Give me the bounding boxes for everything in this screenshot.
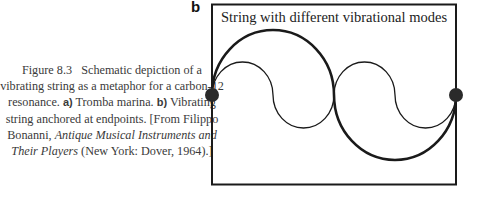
string-diagram: String with different vibrational modes (0, 0, 487, 200)
left-anchor-point (205, 88, 219, 102)
right-anchor-point (449, 88, 463, 102)
diagram-title: String with different vibrational modes (221, 9, 447, 25)
thick-mode-curve (212, 30, 456, 160)
